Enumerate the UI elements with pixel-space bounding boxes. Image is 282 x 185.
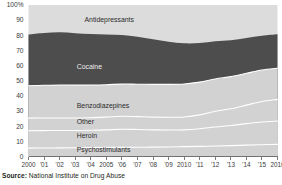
y-tick-label: 0 <box>20 153 24 160</box>
x-tick-label: '14 <box>242 161 251 168</box>
series-label-psychostimulants: Psychostimulants <box>77 146 131 154</box>
x-tick-label: '04 <box>87 161 96 168</box>
x-tick-label: 2005 <box>99 161 114 168</box>
x-axis-tick-labels: 2000'01'02'03'042005'06'07'08'092010'11'… <box>21 161 282 168</box>
series-label-heroin: Heroin <box>77 132 97 139</box>
x-tick-label: '07 <box>133 161 142 168</box>
stacked-area-chart: 0102030405060708090100% 2000'01'02'03'04… <box>0 0 282 185</box>
x-tick-label: 2010 <box>177 161 192 168</box>
area-bands-group <box>29 5 278 157</box>
x-tick-label: 2000 <box>21 161 36 168</box>
series-label-other: Other <box>77 118 95 125</box>
axes-group <box>29 157 278 160</box>
chart-canvas: 0102030405060708090100% 2000'01'02'03'04… <box>0 0 282 185</box>
series-label-cocaine: Cocaine <box>77 63 102 70</box>
y-axis-tick-labels: 0102030405060708090100% <box>7 1 24 160</box>
source-prefix: Source: <box>2 172 27 179</box>
x-tick-label: '01 <box>40 161 49 168</box>
y-tick-label: 60 <box>16 62 24 69</box>
y-tick-label: 90 <box>16 16 24 23</box>
y-tick-label: 70 <box>16 47 24 54</box>
series-label-antidepressants: Antidepressants <box>85 16 135 24</box>
y-tick-label: 40 <box>16 92 24 99</box>
x-tick-label: '03 <box>71 161 80 168</box>
x-tick-label: 2016 <box>270 161 282 168</box>
source-note: Source: National Institute on Drug Abuse <box>2 172 125 179</box>
y-tick-label: 80 <box>16 32 24 39</box>
y-tick-label: 10 <box>16 138 24 145</box>
y-tick-label: 30 <box>16 107 24 114</box>
x-tick-label: '13 <box>227 161 236 168</box>
x-tick-label: '15 <box>258 161 267 168</box>
y-tick-label: 20 <box>16 123 24 130</box>
x-tick-label: '06 <box>118 161 127 168</box>
y-tick-label: 100% <box>7 1 24 8</box>
source-text: National Institute on Drug Abuse <box>27 172 125 179</box>
y-tick-label: 50 <box>16 77 24 84</box>
x-tick-label: '12 <box>211 161 220 168</box>
x-tick-label: '08 <box>149 161 158 168</box>
series-label-benzodiazepines: Benzodiazepines <box>77 102 130 110</box>
x-tick-label: '09 <box>164 161 173 168</box>
x-tick-label: '02 <box>55 161 64 168</box>
x-tick-label: '11 <box>196 161 204 168</box>
